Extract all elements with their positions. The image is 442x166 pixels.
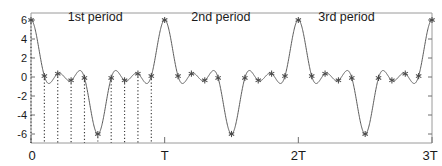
period-annotations: 1st period2nd period3rd period [68,10,375,24]
plot-frame [31,13,432,143]
x-tick-labels: 0T2T3T [28,148,437,163]
sample-marker [349,75,354,81]
x-tick-label: 2T [291,148,306,163]
y-tick-label: 2 [21,52,27,64]
sample-marker [416,73,421,79]
figure-container: 6420-2-4-6 0T2T3T 1st period2nd period3r… [0,0,442,166]
y-tick-label: -2 [17,90,27,102]
y-axis-ticks [31,20,432,134]
period-annotation: 2nd period [191,10,250,24]
period-annotation: 3rd period [318,10,374,24]
period-annotation: 1st period [68,10,123,24]
sample-marker [376,75,381,81]
y-tick-label: -6 [17,128,27,140]
sample-marker [42,73,47,79]
x-tick-label: T [161,148,169,163]
y-tick-label: -4 [17,109,27,121]
y-tick-label: 4 [21,33,27,45]
waveform-path [31,20,432,134]
sample-marker [109,75,114,81]
sample-marker [309,73,314,79]
y-tick-label: 6 [21,14,27,26]
sample-marker [215,75,220,81]
sample-marker [149,73,154,79]
signal-plot: 6420-2-4-6 0T2T3T 1st period2nd period3r… [0,0,442,166]
y-tick-label: 0 [21,71,27,83]
sample-marker [82,75,87,81]
sample-marker [242,75,247,81]
sample-marker [175,73,180,79]
waveform-curve [31,20,432,134]
sample-markers [28,17,434,137]
sample-marker [282,73,287,79]
x-axis-ticks [31,137,432,143]
x-tick-label: 0 [28,148,35,163]
axes-box [31,13,432,143]
y-tick-labels: 6420-2-4-6 [17,14,27,140]
x-tick-label: 3T [422,148,437,163]
